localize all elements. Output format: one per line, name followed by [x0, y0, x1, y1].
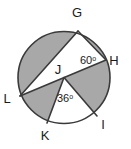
angle-value-36: 36	[57, 92, 69, 104]
point-label-K: K	[41, 128, 50, 143]
geometry-figure: G H I K L J 60o 36o	[0, 0, 131, 149]
point-label-J: J	[55, 62, 62, 77]
point-label-L: L	[3, 91, 10, 106]
geometry-canvas: G H I K L J 60o 36o	[0, 0, 131, 149]
angle-degree-symbol-36: o	[69, 93, 73, 100]
point-label-I: I	[101, 117, 105, 132]
angle-value-60: 60	[80, 54, 92, 66]
point-label-G: G	[72, 5, 82, 20]
angle-degree-symbol-60: o	[92, 55, 96, 62]
point-label-H: H	[109, 53, 118, 68]
